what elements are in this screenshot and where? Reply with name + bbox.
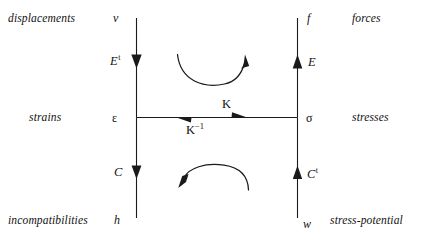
operator-label-C: C — [114, 166, 123, 179]
operator-E-base: E — [308, 55, 316, 69]
label-displacements: displacements — [8, 13, 75, 25]
node-var-h: h — [114, 214, 120, 226]
arrowhead-K-right — [232, 112, 247, 117]
arrowhead-E-transpose-down — [131, 55, 141, 69]
label-forces: forces — [352, 13, 381, 25]
arrowhead-E-up — [293, 55, 303, 69]
node-var-sigma: σ — [306, 112, 312, 124]
operator-C-base: C — [114, 165, 122, 179]
label-strains: strains — [29, 112, 61, 124]
label-stresses: stresses — [352, 112, 389, 124]
arrowhead-C-transpose-up — [293, 166, 302, 180]
label-incompatibilities: incompatibilities — [8, 215, 88, 227]
node-var-epsilon: ε — [112, 112, 117, 124]
operator-label-E-transpose: Et — [110, 55, 120, 68]
label-stress-potential: stress-potential — [330, 215, 403, 227]
operator-label-K: K — [222, 98, 231, 111]
operator-E-transpose-superscript: t — [118, 53, 120, 62]
operator-label-C-transpose: Ct — [307, 168, 318, 181]
arrowhead-K-inverse-left — [177, 118, 192, 123]
arrowhead-C-down — [132, 166, 142, 180]
operator-K-inverse-base: K — [186, 123, 195, 137]
operator-label-E: E — [308, 56, 316, 69]
operator-C-transpose-base: C — [307, 167, 315, 181]
node-var-f: f — [307, 12, 310, 24]
lower-commutation-loop-arrow — [178, 165, 248, 190]
operator-C-transpose-superscript: t — [316, 166, 318, 175]
node-var-w: w — [303, 218, 311, 230]
operator-K-inverse-superscript: −1 — [195, 121, 204, 131]
operator-label-K-inverse: K−1 — [186, 124, 204, 137]
operator-E-transpose-base: E — [110, 54, 118, 68]
upper-commutation-loop-arrow — [178, 55, 250, 86]
node-var-v: v — [113, 12, 118, 24]
operator-K-base: K — [222, 97, 231, 111]
tonti-diagram: displacements forces strains stresses in… — [0, 0, 424, 242]
